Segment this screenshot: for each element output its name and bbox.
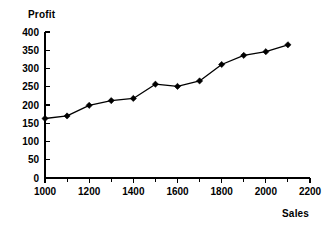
x-tick-label: 1800 [211, 186, 234, 197]
x-tick-label: 2000 [255, 186, 278, 197]
profit-vs-sales-chart: Profit Sales 050100150200250300350400 10… [0, 0, 335, 235]
data-series-line [45, 45, 288, 119]
data-point-marker [64, 113, 70, 119]
x-tick-label: 1400 [122, 186, 145, 197]
y-tick-label: 300 [22, 63, 39, 74]
x-axis-ticks: 1000120014001600180020002200 [34, 178, 322, 197]
x-tick-label: 2200 [299, 186, 322, 197]
y-tick-label: 250 [22, 81, 39, 92]
data-point-marker [285, 42, 291, 48]
y-tick-label: 0 [33, 173, 39, 184]
data-point-marker [174, 83, 180, 89]
x-tick-label: 1200 [78, 186, 101, 197]
data-point-marker [241, 52, 247, 58]
x-tick-label: 1000 [34, 186, 57, 197]
y-tick-label: 200 [22, 100, 39, 111]
y-axis-ticks: 050100150200250300350400 [22, 27, 50, 184]
y-tick-label: 150 [22, 118, 39, 129]
data-point-marker [42, 115, 48, 121]
plot-area: 050100150200250300350400 100012001400160… [0, 0, 335, 235]
y-tick-label: 100 [22, 136, 39, 147]
y-tick-label: 400 [22, 27, 39, 38]
data-point-marker [86, 102, 92, 108]
y-tick-label: 50 [28, 154, 40, 165]
x-tick-label: 1600 [166, 186, 189, 197]
data-point-marker [108, 98, 114, 104]
data-point-marker [263, 49, 269, 55]
y-tick-label: 350 [22, 45, 39, 56]
